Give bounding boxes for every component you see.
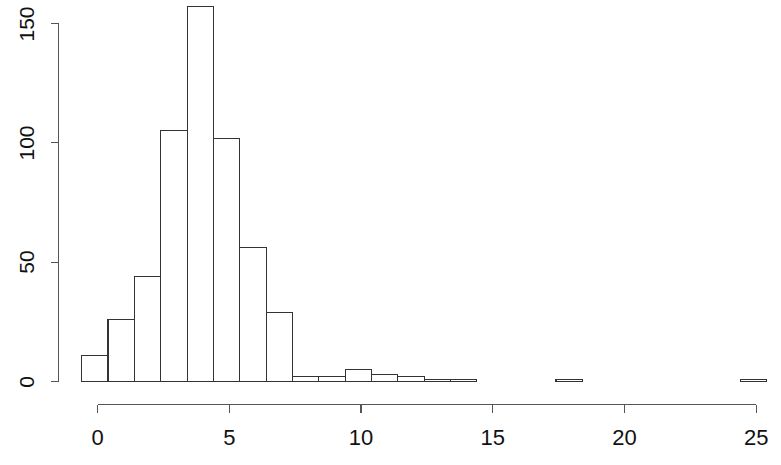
x-tick-label: 5 — [199, 425, 259, 451]
y-tick-label: 0 — [6, 367, 48, 397]
y-axis-line — [51, 24, 59, 382]
x-tick-label: 15 — [463, 425, 523, 451]
x-tick-label: 0 — [68, 425, 128, 451]
y-tick-label-text: 150 — [12, 6, 42, 41]
y-tick-label: 100 — [6, 128, 48, 158]
bars-group — [82, 7, 767, 382]
histogram-bar — [740, 379, 766, 381]
histogram-bar — [372, 374, 398, 381]
y-tick-label-text: 50 — [12, 250, 42, 273]
histogram-bar — [134, 276, 160, 381]
histogram-bar — [319, 377, 345, 382]
y-tick-label: 50 — [6, 247, 48, 277]
x-tick-label: 10 — [331, 425, 391, 451]
plot-area — [0, 0, 781, 465]
histogram-bar — [108, 319, 134, 381]
y-tick-label: 150 — [6, 9, 48, 39]
x-axis-line — [98, 405, 757, 413]
y-tick-label-text: 100 — [12, 125, 42, 160]
histogram-bar — [424, 379, 450, 381]
y-tick-label-text: 0 — [12, 376, 42, 388]
x-tick-label: 25 — [726, 425, 781, 451]
histogram-bar — [556, 379, 582, 381]
histogram-bar — [266, 312, 292, 381]
histogram-bar — [187, 7, 213, 382]
histogram-bar — [292, 377, 318, 382]
histogram-chart: 050100150 0510152025 — [0, 0, 781, 465]
plot-svg — [0, 0, 781, 465]
histogram-bar — [82, 355, 108, 381]
histogram-bar — [345, 370, 371, 382]
x-tick-label: 20 — [595, 425, 655, 451]
histogram-bar — [240, 248, 266, 382]
histogram-bar — [161, 131, 187, 382]
histogram-bar — [398, 377, 424, 382]
histogram-bar — [451, 379, 477, 381]
histogram-bar — [213, 138, 239, 381]
